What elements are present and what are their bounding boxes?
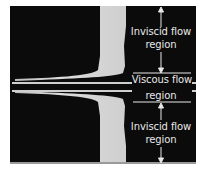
lower-smoke-band <box>15 91 126 164</box>
viscous-label-line2: region <box>130 90 192 102</box>
flow-visualization-photo: Inviscid flow region Viscous flow region… <box>10 6 196 164</box>
upper-smoke-band <box>15 6 126 81</box>
viscous-label-line1: Viscous flow <box>130 74 194 86</box>
bottom-edge-line <box>10 162 196 164</box>
bottom-inviscid-label-line1: Inviscid flow <box>130 121 192 133</box>
bottom-inviscid-label-line2: region <box>130 134 192 146</box>
top-inviscid-label-line2: region <box>130 39 192 51</box>
top-inviscid-label-line1: Inviscid flow <box>130 26 192 38</box>
bottom-double-arrow-icon <box>159 103 164 163</box>
